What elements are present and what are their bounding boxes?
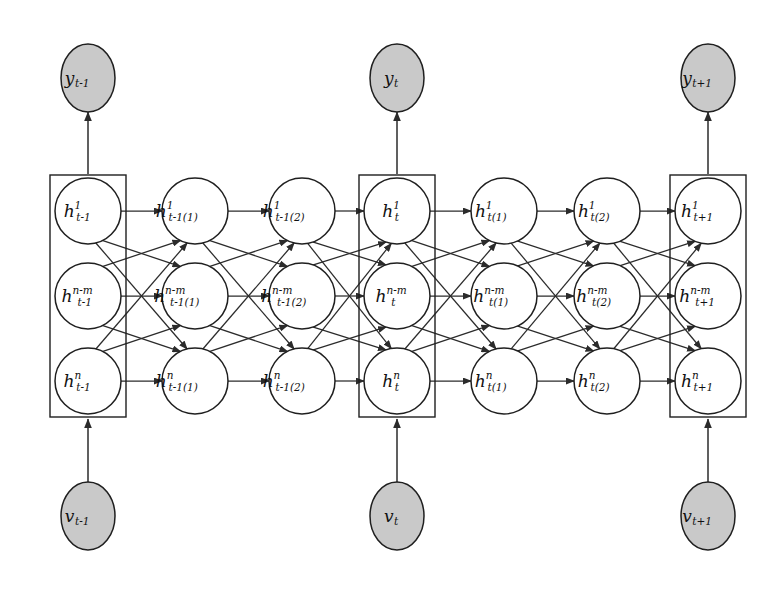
hidden-unit-node: hnt(2) [574,348,640,414]
node-label: hn-mt(1) [473,284,508,309]
node-label: hn-mt+1 [679,284,715,309]
hidden-unit-node: h1t(2) [574,178,640,244]
hidden-unit-node: hnt(1) [471,348,537,414]
hidden-unit-node: hnt-1(2) [263,348,335,414]
hidden-unit-node: hn-mt-1(2) [261,263,335,329]
rnn-diagram-canvas: h1t-1hn-mt-1hnt-1h1t-1(1)hn-mt-1(1)hnt-1… [0,0,784,590]
hidden-unit-node: hn-mt-1 [55,263,121,329]
nodes-layer: h1t-1hn-mt-1hnt-1h1t-1(1)hn-mt-1(1)hnt-1… [55,178,741,414]
input-node: vt+1 [681,482,735,550]
hidden-unit-node: h1t-1(2) [263,178,335,244]
hidden-unit-circle [364,263,430,329]
hidden-unit-node: hnt+1 [675,348,741,414]
node-label: hn-mt-1 [62,284,93,309]
hidden-unit-node: h1t [364,178,430,244]
hidden-unit-node: hnt-1 [55,348,121,414]
output-node: yt+1 [681,44,735,112]
hidden-unit-node: hnt-1(1) [156,348,228,414]
node-label: h1t [382,199,400,224]
output-node: yt-1 [61,44,115,112]
hidden-unit-node: hnt [364,348,430,414]
hidden-unit-node: hn-mt(2) [574,263,640,329]
rnn-diagram: h1t-1hn-mt-1hnt-1h1t-1(1)hn-mt-1(1)hnt-1… [0,0,784,590]
hidden-unit-node: hn-mt+1 [675,263,741,329]
hidden-unit-node: hn-mt [364,263,430,329]
output-node: yt [370,44,424,112]
hidden-unit-node: h1t+1 [675,178,741,244]
node-label: hn-mt(2) [576,284,611,309]
hidden-unit-node: hn-mt(1) [471,263,537,329]
node-label: hnt [382,369,400,394]
hidden-unit-node: hn-mt-1(1) [154,263,228,329]
hidden-unit-node: h1t-1(1) [156,178,228,244]
input-node: vt-1 [61,482,115,550]
hidden-unit-node: h1t(1) [471,178,537,244]
hidden-unit-node: h1t-1 [55,178,121,244]
input-node: vt [370,482,424,550]
